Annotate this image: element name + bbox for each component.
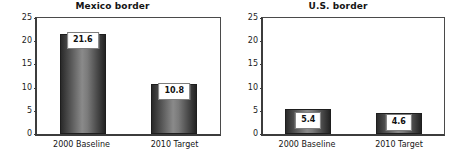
plot-area-mexico-border: 25 20 15 10 5 0 21.6 10.8 <box>35 17 221 136</box>
bar-group-us-border: 5.4 4.6 <box>263 18 444 134</box>
bar-slot-2000-baseline: 5.4 <box>263 18 354 134</box>
y-axis-tick-0: 0 <box>27 130 37 138</box>
bar-group-mexico-border: 21.6 10.8 <box>37 18 220 134</box>
y-axis-tick-0: 0 <box>253 130 263 138</box>
y-axis-tick-10: 10 <box>248 84 263 92</box>
panel-title-mexico-border: Mexico border <box>0 1 225 11</box>
panel-title-us-border: U.S. border <box>225 1 451 11</box>
bar-value-label-mexico-2000-baseline: 21.6 <box>67 32 99 49</box>
dual-bar-chart-figure: Mexico border 25 20 15 10 5 0 21.6 10.8 … <box>0 0 451 168</box>
chart-panel-us-border: U.S. border 25 20 15 10 5 0 5.4 4.6 2000… <box>225 0 451 168</box>
x-axis-label-2010-target: 2010 Target <box>353 140 445 149</box>
bar-value-label-us-2010-target: 4.6 <box>386 114 412 131</box>
y-axis-tick-25: 25 <box>22 14 37 22</box>
bar-slot-2000-baseline: 21.6 <box>37 18 129 134</box>
y-axis-tick-5: 5 <box>27 107 37 115</box>
y-axis-tick-10: 10 <box>22 84 37 92</box>
x-axis-labels-mexico-border: 2000 Baseline 2010 Target <box>35 140 221 149</box>
y-axis-tick-25: 25 <box>248 14 263 22</box>
y-axis-tick-15: 15 <box>22 60 37 68</box>
x-axis-labels-us-border: 2000 Baseline 2010 Target <box>261 140 445 149</box>
bar-slot-2010-target: 4.6 <box>354 18 445 134</box>
x-axis-label-2010-target: 2010 Target <box>128 140 221 149</box>
y-axis-tick-20: 20 <box>248 37 263 45</box>
y-axis-tick-5: 5 <box>253 107 263 115</box>
x-axis-label-2000-baseline: 2000 Baseline <box>261 140 353 149</box>
plot-area-us-border: 25 20 15 10 5 0 5.4 4.6 <box>261 17 445 136</box>
x-axis-label-2000-baseline: 2000 Baseline <box>35 140 128 149</box>
bar-slot-2010-target: 10.8 <box>129 18 221 134</box>
bar-value-label-mexico-2010-target: 10.8 <box>158 83 190 100</box>
bar-value-label-us-2000-baseline: 5.4 <box>295 112 321 129</box>
y-axis-tick-20: 20 <box>22 37 37 45</box>
y-axis-tick-15: 15 <box>248 60 263 68</box>
chart-panel-mexico-border: Mexico border 25 20 15 10 5 0 21.6 10.8 … <box>0 0 225 168</box>
